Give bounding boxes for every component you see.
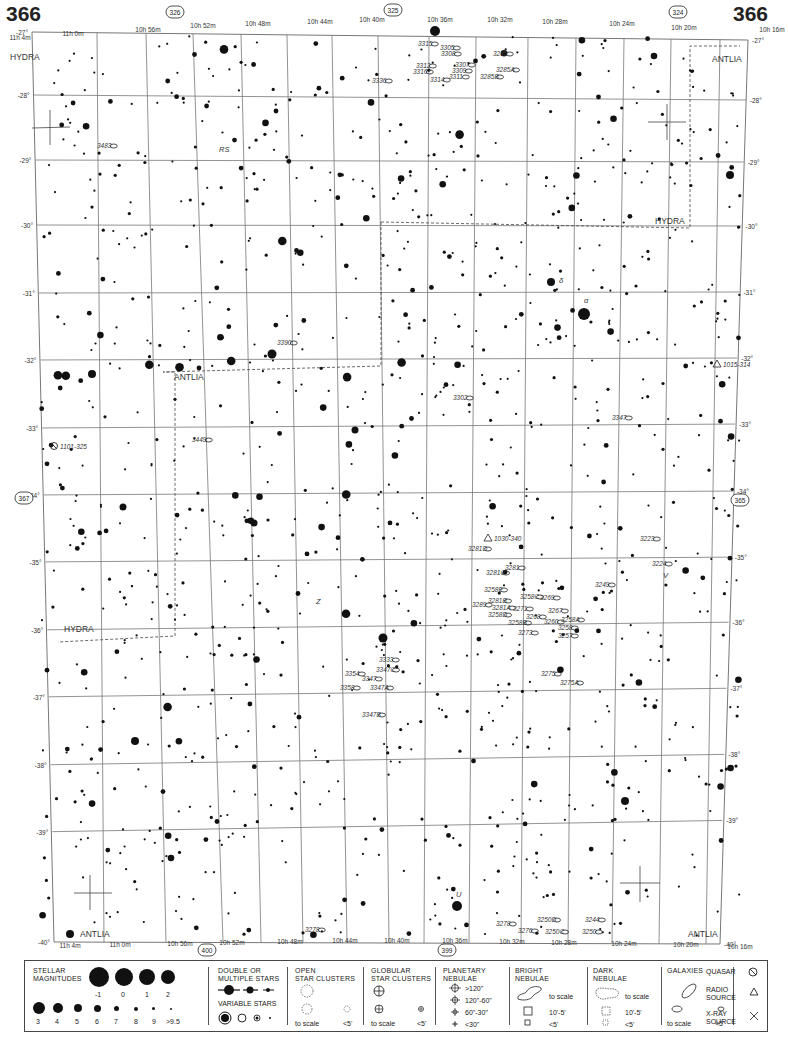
galaxy-marker[interactable]: 3314 — [430, 76, 450, 83]
galaxy-marker[interactable]: 3285A — [496, 66, 520, 73]
svg-text:10h 52m: 10h 52m — [219, 939, 244, 946]
open-cluster-icon — [295, 983, 359, 1017]
legend-globular-clusters: GLOBULAR STAR CLUSTERS to scale <5' — [371, 967, 433, 1027]
star-designation-marker[interactable]: δ — [559, 276, 564, 285]
galaxy-marker[interactable]: 3390 — [277, 339, 297, 346]
galaxy-marker[interactable]: 3269 — [540, 594, 560, 601]
galaxy-marker[interactable]: 3281A — [492, 604, 516, 611]
svg-text:10h 16m: 10h 16m — [759, 26, 784, 33]
legend-label: 120"-60" — [465, 997, 492, 1005]
svg-text:10h 24m: 10h 24m — [609, 20, 634, 27]
galaxy-marker[interactable]: 3273 — [518, 629, 538, 636]
adjacent-chart-top[interactable]: 325 — [384, 4, 402, 16]
quasar-icon — [747, 966, 759, 978]
variable-star-marker[interactable]: Z — [315, 597, 321, 606]
galaxy-marker[interactable]: 3258B — [508, 619, 532, 626]
galaxy-marker[interactable]: 3278 — [496, 920, 516, 927]
radio-source-marker[interactable]: 1030-340 — [484, 534, 522, 542]
magnitude-dot — [114, 1006, 119, 1011]
galaxy-marker[interactable]: 3281D — [468, 545, 492, 552]
galaxy-marker[interactable]: 3483 — [97, 142, 117, 149]
galaxy-marker[interactable]: 3276 — [518, 927, 538, 934]
legend-label: SOURCE — [706, 1018, 736, 1026]
galaxy-marker[interactable]: 3281 — [505, 564, 525, 571]
galaxy-marker[interactable]: 3449 — [192, 436, 212, 443]
variable-star-marker[interactable]: RS — [219, 145, 229, 154]
svg-text:α: α — [584, 296, 589, 305]
magnitude-label: 9 — [152, 1018, 156, 1026]
legend-divider — [208, 967, 209, 1025]
adjacent-chart-right[interactable]: 365 — [731, 494, 749, 506]
magnitude-dot — [152, 1007, 155, 1010]
svg-text:RS: RS — [219, 145, 229, 154]
svg-text:10h 56m: 10h 56m — [135, 26, 160, 33]
svg-text:3275A: 3275A — [560, 679, 579, 686]
adjacent-chart-top_right[interactable]: 324 — [669, 6, 687, 18]
magnitude-dot — [89, 967, 109, 987]
galaxy-marker[interactable]: 3224 — [652, 560, 672, 567]
galaxy-marker[interactable]: 3258 — [558, 624, 578, 631]
galaxy-marker[interactable]: 3302 — [453, 394, 473, 401]
adjacent-chart-left[interactable]: 367 — [15, 492, 33, 504]
galaxy-marker[interactable]: 3347 — [612, 414, 632, 421]
star-designation-marker[interactable]: α — [584, 296, 589, 305]
variable-star-marker[interactable]: V — [663, 571, 669, 580]
magnitude-dot — [170, 1008, 172, 1010]
galaxy-marker[interactable]: 3258D — [488, 611, 512, 618]
svg-text:3285A: 3285A — [496, 66, 515, 73]
adjacent-chart-bottom_right[interactable]: 399 — [438, 944, 456, 956]
legend-dark-nebulae: DARK NEBULAE to scale 10'-5' <5' — [593, 967, 659, 1027]
magnitude-label: 2 — [166, 991, 170, 999]
svg-text:3390: 3390 — [277, 339, 292, 346]
svg-text:3285B: 3285B — [480, 73, 499, 80]
galaxy-marker[interactable]: 3258E — [484, 586, 508, 593]
adjacent-chart-bottom_left[interactable]: 400 — [198, 944, 216, 956]
galaxy-marker[interactable]: 3347B — [362, 711, 386, 718]
svg-text:3268: 3268 — [526, 613, 541, 620]
galaxy-marker[interactable]: 3223 — [640, 535, 660, 542]
galaxy-marker[interactable]: 3285 — [493, 50, 513, 57]
legend-title: STAR CLUSTERS — [371, 975, 433, 983]
svg-text:400: 400 — [202, 947, 213, 954]
galaxy-marker[interactable]: 3275A — [560, 679, 584, 686]
svg-text:3258: 3258 — [558, 624, 573, 631]
adjacent-chart-top_left[interactable]: 326 — [166, 6, 184, 18]
legend-label: QUASAR — [706, 968, 736, 976]
galaxy-marker[interactable]: 3258A — [561, 616, 585, 623]
svg-text:-38°: -38° — [728, 751, 740, 758]
legend-title: NEBULAE — [593, 975, 659, 983]
galaxy-marker[interactable]: 3244 — [585, 916, 605, 923]
galaxy-marker[interactable]: 3347 — [362, 675, 382, 682]
svg-text:-27°: -27° — [16, 29, 28, 36]
galaxy-marker[interactable]: 3271 — [513, 605, 533, 612]
galaxy-marker[interactable]: 3333 — [379, 656, 399, 663]
svg-text:-33°: -33° — [739, 421, 751, 428]
svg-text:10h 40m: 10h 40m — [359, 16, 384, 23]
quasar-marker[interactable]: 1101-325 — [51, 443, 88, 451]
galaxy-marker[interactable]: 3281B — [488, 597, 512, 604]
legend-label: X-RAY — [706, 1010, 727, 1018]
galaxy-marker[interactable]: 3336 — [372, 77, 392, 84]
galaxy-marker[interactable]: 3316 — [413, 68, 433, 75]
svg-text:1101-325: 1101-325 — [60, 443, 87, 450]
galaxy-marker[interactable]: 3278 — [305, 926, 325, 933]
svg-text:3244: 3244 — [585, 916, 600, 923]
galaxy-marker[interactable]: 3358 — [340, 684, 360, 691]
galaxy-marker[interactable]: 3347A — [370, 684, 394, 691]
galaxy-marker[interactable]: 3285B — [480, 73, 504, 80]
svg-text:3336: 3336 — [372, 77, 387, 84]
galaxy-marker[interactable]: 3257 — [558, 632, 578, 639]
galaxy-marker[interactable]: 3315 — [418, 40, 438, 47]
magnitude-label: 4 — [55, 1018, 59, 1026]
galaxy-marker[interactable]: 3249 — [595, 581, 615, 588]
galaxy-marker[interactable]: 3308 — [441, 50, 461, 57]
galaxy-marker[interactable]: 3267 — [548, 607, 568, 614]
svg-text:HYDRA: HYDRA — [64, 624, 94, 634]
galaxy-marker[interactable]: 3311 — [449, 73, 469, 80]
galaxy-marker[interactable]: 3250C — [545, 928, 569, 935]
galaxy-marker[interactable]: 3250D — [537, 916, 561, 923]
legend-title: STAR CLUSTERS — [295, 975, 359, 983]
variable-star-marker[interactable]: U — [456, 890, 462, 899]
legend-title: DARK — [593, 967, 659, 975]
svg-text:1030-340: 1030-340 — [494, 535, 522, 542]
